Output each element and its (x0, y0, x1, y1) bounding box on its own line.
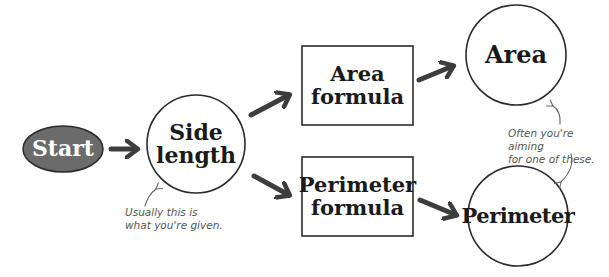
arrow-perimeter-formula-to-perimeter (420, 200, 456, 215)
area-formula-node-label: Area formula (302, 46, 413, 125)
side-length-node-label: Side length (147, 95, 245, 193)
arrow-side-to-area-formula (251, 95, 289, 115)
diagram-canvas: Start Side length Area formula Perimeter… (0, 0, 609, 277)
arrow-side-to-perimeter-formula (254, 176, 289, 195)
area-node-label: Area (466, 5, 566, 105)
annotation-given: Usually this is what you're given. (125, 206, 223, 232)
annotation-aiming: Often you're aiming for one of these. (508, 127, 609, 166)
perimeter-formula-node-label: Perimeter formula (302, 157, 413, 236)
arrow-area-formula-to-area (419, 66, 453, 80)
perimeter-node-label: Perimeter (468, 166, 568, 266)
annotation-arrow-area (553, 106, 560, 124)
start-node-label: Start (23, 126, 103, 172)
